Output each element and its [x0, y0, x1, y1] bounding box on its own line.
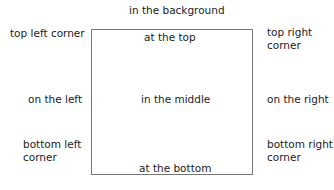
label-top: at the top — [144, 31, 196, 44]
label-right: on the right — [267, 93, 329, 106]
label-bottom-right-line1: bottom right — [267, 138, 333, 151]
label-top-right-line2: corner — [267, 39, 301, 52]
label-left: on the left — [28, 93, 82, 106]
label-bottom-right-line2: corner — [267, 151, 301, 164]
label-bottom-left-line1: bottom left — [23, 138, 81, 151]
label-bottom-left-line2: corner — [23, 151, 57, 164]
label-top-right-line1: top right — [267, 26, 312, 39]
label-top-left: top left corner — [10, 27, 85, 40]
label-bottom: at the bottom — [139, 162, 211, 175]
label-middle: in the middle — [141, 93, 210, 106]
label-background: in the background — [129, 4, 225, 17]
